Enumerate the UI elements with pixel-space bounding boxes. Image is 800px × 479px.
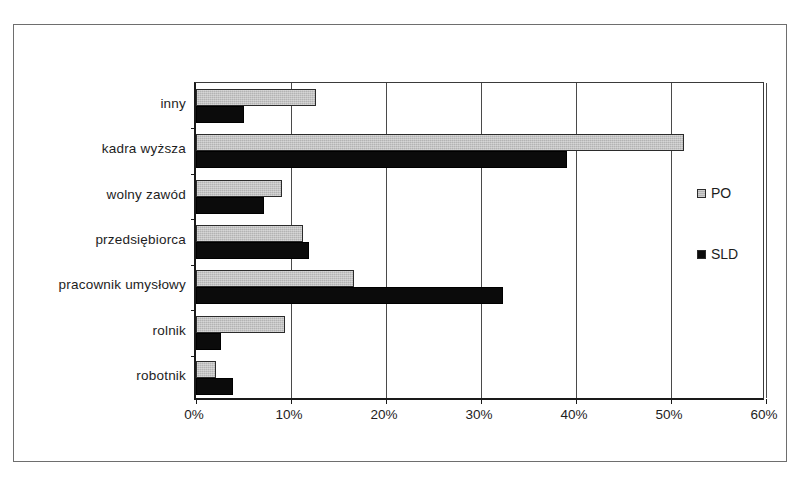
x-gridline: [576, 83, 577, 398]
x-tick-label: 60%: [750, 407, 777, 422]
x-gridline: [766, 83, 767, 398]
x-gridline: [386, 83, 387, 398]
x-tick-label: 20%: [370, 407, 397, 422]
x-tick-mark: [386, 399, 387, 404]
x-tick-label: 50%: [655, 407, 682, 422]
legend-swatch-po: [697, 189, 706, 198]
y-tick-mark: [191, 265, 196, 266]
bar-po-6: [196, 361, 216, 378]
legend-label: PO: [711, 185, 731, 201]
bar-sld-4: [196, 287, 503, 304]
bar-sld-6: [196, 378, 233, 395]
y-category-label: kadra wyższa: [102, 141, 186, 156]
x-tick-mark: [766, 399, 767, 404]
y-tick-mark: [191, 310, 196, 311]
bar-sld-2: [196, 197, 264, 214]
x-tick-label: 10%: [275, 407, 302, 422]
bar-po-3: [196, 225, 303, 242]
y-tick-mark: [191, 219, 196, 220]
x-tick-mark: [481, 399, 482, 404]
legend-entry-po: PO: [697, 185, 731, 201]
legend-label: SLD: [711, 246, 738, 262]
y-category-label: robotnik: [136, 368, 186, 383]
bar-sld-1: [196, 151, 567, 168]
legend-entry-sld: SLD: [697, 246, 738, 262]
y-category-label: wolny zawód: [107, 187, 187, 202]
bar-sld-5: [196, 333, 221, 350]
y-tick-mark: [191, 174, 196, 175]
bar-po-2: [196, 180, 282, 197]
bar-sld-3: [196, 242, 309, 259]
bar-sld-0: [196, 106, 244, 123]
x-tick-label: 30%: [465, 407, 492, 422]
x-tick-mark: [291, 399, 292, 404]
y-category-label: pracownik umysłowy: [59, 277, 186, 292]
y-axis-labels: innykadra wyższawolny zawódprzedsiębiorc…: [14, 82, 186, 400]
bar-po-0: [196, 89, 316, 106]
y-tick-mark: [191, 356, 196, 357]
legend-swatch-sld: [697, 250, 706, 259]
x-tick-mark: [196, 399, 197, 404]
x-gridline: [671, 83, 672, 398]
bar-po-5: [196, 316, 285, 333]
y-category-label: rolnik: [153, 323, 186, 338]
x-tick-mark: [671, 399, 672, 404]
x-tick-label: 40%: [560, 407, 587, 422]
x-gridline: [481, 83, 482, 398]
x-tick-mark: [576, 399, 577, 404]
figure-frame: innykadra wyższawolny zawódprzedsiębiorc…: [13, 24, 787, 462]
bar-po-4: [196, 270, 354, 287]
y-category-label: przedsiębiorca: [95, 232, 186, 247]
plot-area: [194, 82, 764, 400]
y-tick-mark: [191, 128, 196, 129]
x-tick-label: 0%: [184, 407, 204, 422]
y-category-label: inny: [160, 96, 186, 111]
bar-po-1: [196, 134, 684, 151]
